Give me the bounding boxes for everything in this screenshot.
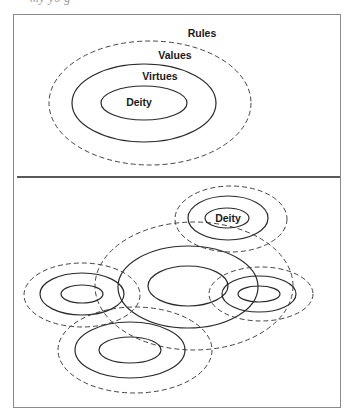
concentric-circles-diagram: Rules Values Virtues Deity Deity <box>0 0 357 417</box>
cluster-center-middle-ring <box>118 246 258 328</box>
label-deity: Deity <box>126 96 152 108</box>
label-rules: Rules <box>188 27 217 39</box>
cluster-bottom-outer-ring <box>58 307 212 393</box>
cluster-top-right: Deity <box>175 186 287 252</box>
label-virtues: Virtues <box>142 70 178 82</box>
cluster-left-core <box>61 285 103 303</box>
cluster-right-middle-ring <box>222 276 296 312</box>
cluster-bottom-middle-ring <box>75 322 185 378</box>
label-deity-bottom: Deity <box>215 212 241 224</box>
cluster-bottom <box>58 307 212 393</box>
cluster-left <box>24 263 140 327</box>
label-values: Values <box>158 49 191 61</box>
bottom-panel-overlapping-models: Deity <box>24 186 313 393</box>
cluster-center-core <box>148 266 228 306</box>
top-panel-single-model: Rules Values Virtues Deity <box>49 27 251 165</box>
cluster-bottom-core <box>99 337 161 363</box>
cluster-right-core <box>238 286 280 302</box>
